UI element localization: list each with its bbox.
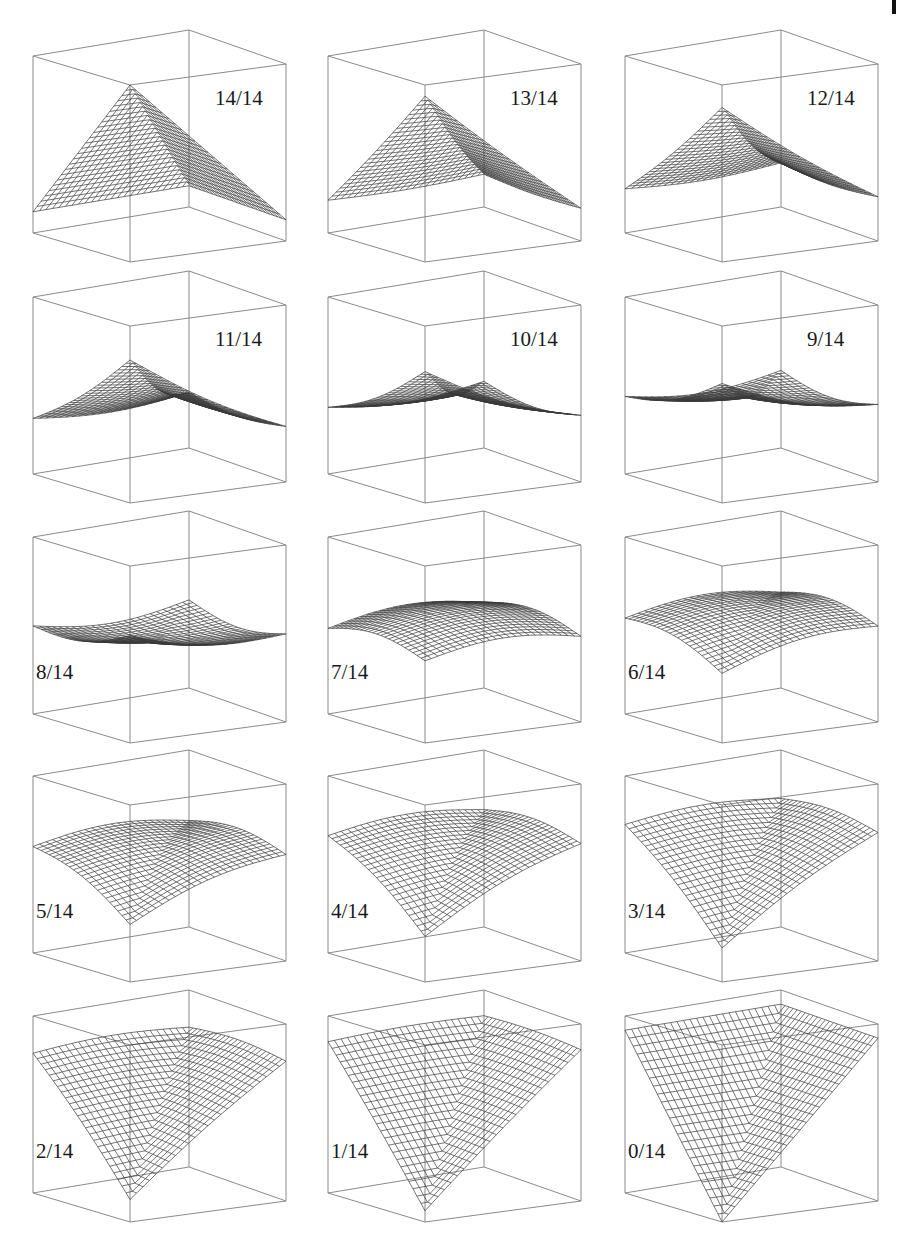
surface-panel: 4/14 <box>295 720 595 965</box>
box-edge <box>328 537 425 566</box>
surface-panel: 0/14 <box>592 960 892 1205</box>
box-edge <box>781 688 878 722</box>
surface-panel: 2/14 <box>0 960 300 1205</box>
box-edge <box>189 271 286 305</box>
surface-mesh <box>328 96 581 208</box>
box-edge <box>328 207 484 233</box>
box-edge <box>130 1024 286 1045</box>
box-edge <box>625 207 781 233</box>
wireframe-plot <box>0 241 300 521</box>
surface-panel: 8/14 <box>0 481 300 726</box>
box-edge <box>625 297 722 326</box>
box-edge <box>189 688 286 722</box>
box-edge <box>33 271 189 297</box>
wireframe-plot <box>592 960 892 1238</box>
box-edge <box>781 990 878 1024</box>
box-edge <box>781 271 878 305</box>
wireframe-plot <box>0 720 300 1000</box>
box-edge <box>33 1016 130 1045</box>
surface-panel: 7/14 <box>295 481 595 726</box>
box-edge <box>189 1167 286 1201</box>
box-edge <box>484 1167 581 1201</box>
panel-label: 10/14 <box>510 329 558 350</box>
box-edge <box>130 1201 286 1222</box>
panel-label: 13/14 <box>510 88 558 109</box>
box-edge <box>781 511 878 545</box>
box-edge <box>33 511 189 537</box>
box-edge <box>625 776 722 805</box>
box-edge <box>328 297 425 326</box>
surface-mesh <box>33 1027 286 1199</box>
box-edge <box>484 271 581 305</box>
box-edge <box>625 30 781 56</box>
surface-mesh <box>328 1016 581 1211</box>
panel-label: 9/14 <box>807 329 844 350</box>
box-edge <box>625 271 781 297</box>
box-edge <box>722 64 878 85</box>
panel-label: 12/14 <box>807 88 855 109</box>
page-corner-mark <box>892 0 896 14</box>
box-edge <box>328 990 484 1016</box>
box-edge <box>625 688 781 714</box>
box-edge <box>33 776 130 805</box>
wireframe-plot <box>592 481 892 761</box>
box-edge <box>189 448 286 482</box>
box-edge <box>130 545 286 566</box>
box-edge <box>425 1201 581 1222</box>
wireframe-plot <box>592 0 892 280</box>
wireframe-plot <box>0 960 300 1238</box>
wireframe-plot <box>295 960 595 1238</box>
surface-mesh <box>625 1004 878 1222</box>
panel-label: 5/14 <box>36 901 73 922</box>
box-edge <box>33 990 189 1016</box>
box-edge <box>625 448 781 474</box>
box-edge <box>130 64 286 85</box>
surface-panel: 9/14 <box>592 241 892 486</box>
box-edge <box>328 776 425 805</box>
surface-mesh <box>625 108 878 197</box>
box-edge <box>425 305 581 326</box>
wireframe-plot <box>0 0 300 280</box>
box-edge <box>625 927 781 953</box>
box-edge <box>484 927 581 961</box>
surface-panel: 5/14 <box>0 720 300 965</box>
box-edge <box>189 750 286 784</box>
panel-label: 2/14 <box>36 1141 73 1162</box>
box-edge <box>425 784 581 805</box>
box-edge <box>33 688 189 714</box>
box-edge <box>328 750 484 776</box>
wireframe-plot <box>295 0 595 280</box>
box-edge <box>328 511 484 537</box>
box-edge <box>33 750 189 776</box>
surface-panel: 11/14 <box>0 241 300 486</box>
surface-panel: 12/14 <box>592 0 892 245</box>
box-edge <box>33 30 189 56</box>
box-edge <box>484 511 581 545</box>
box-edge <box>130 784 286 805</box>
box-edge <box>328 927 484 953</box>
box-edge <box>781 30 878 64</box>
box-edge <box>328 271 484 297</box>
box-edge <box>33 207 189 233</box>
box-edge <box>722 545 878 566</box>
surface-panel: 1/14 <box>295 960 595 1205</box>
box-edge <box>328 1193 425 1222</box>
box-edge <box>33 448 189 474</box>
box-edge <box>484 30 581 64</box>
wireframe-plot <box>295 241 595 521</box>
wireframe-plot <box>592 720 892 1000</box>
surface-morph-figure: 14/1413/1412/1411/1410/149/148/147/146/1… <box>0 0 909 1238</box>
box-edge <box>328 30 484 56</box>
box-edge <box>484 207 581 241</box>
panel-label: 14/14 <box>215 88 263 109</box>
surface-panel: 13/14 <box>295 0 595 245</box>
surface-mesh <box>33 360 286 426</box>
surface-mesh <box>33 600 286 645</box>
panel-label: 7/14 <box>331 662 368 683</box>
surface-panel: 10/14 <box>295 241 595 486</box>
box-edge <box>33 927 189 953</box>
box-edge <box>328 56 425 85</box>
box-edge <box>328 448 484 474</box>
surface-mesh <box>328 601 581 661</box>
wireframe-plot <box>295 720 595 1000</box>
